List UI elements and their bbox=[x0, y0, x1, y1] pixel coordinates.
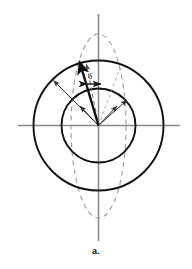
vector-diagram: δ bbox=[0, 0, 192, 269]
figure-container: δ a. bbox=[0, 0, 192, 269]
delta-helper-line bbox=[99, 68, 121, 126]
inner-radius-arrow-right bbox=[99, 106, 118, 126]
delta-angle-label: δ bbox=[88, 71, 93, 81]
figure-caption: a. bbox=[0, 246, 192, 256]
